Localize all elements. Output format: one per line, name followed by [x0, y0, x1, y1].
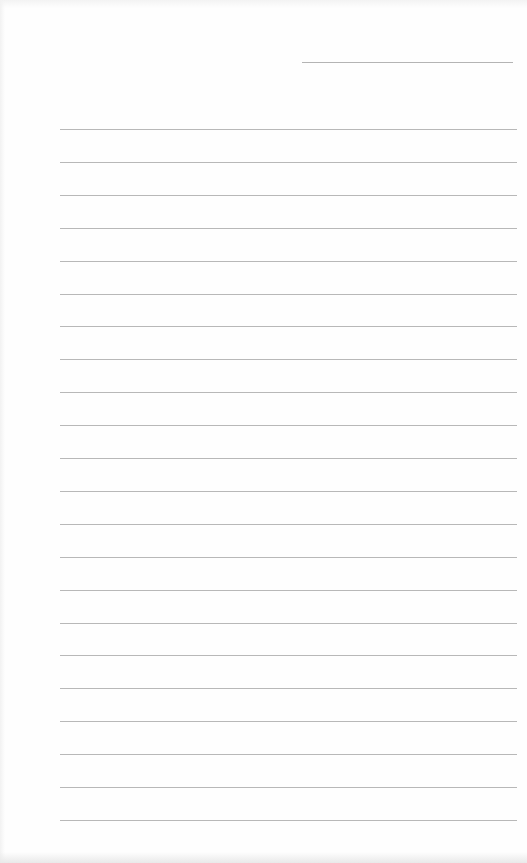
ruled-line: [60, 458, 517, 459]
ruled-line: [60, 721, 517, 722]
ruled-line: [60, 294, 517, 295]
ruled-line: [60, 228, 517, 229]
ruled-line: [60, 754, 517, 755]
ruled-line: [60, 524, 517, 525]
ruled-line: [60, 359, 517, 360]
ruled-line: [60, 326, 517, 327]
ruled-line: [60, 425, 517, 426]
ruled-line: [60, 623, 517, 624]
page-top-edge-shadow: [0, 0, 527, 8]
ruled-line: [60, 162, 517, 163]
ruled-line: [60, 195, 517, 196]
ruled-line: [60, 655, 517, 656]
ruled-line: [60, 129, 517, 130]
ruled-line: [60, 392, 517, 393]
ruled-line: [60, 491, 517, 492]
ruled-line: [60, 557, 517, 558]
ruled-line: [60, 261, 517, 262]
page-left-edge-shadow: [0, 0, 5, 863]
ruled-line: [60, 820, 517, 821]
date-line: [302, 62, 513, 63]
ruled-line: [60, 590, 517, 591]
ruled-line: [60, 688, 517, 689]
page-bottom-edge-shadow: [0, 852, 527, 863]
notebook-page: [0, 0, 527, 863]
ruled-line: [60, 787, 517, 788]
